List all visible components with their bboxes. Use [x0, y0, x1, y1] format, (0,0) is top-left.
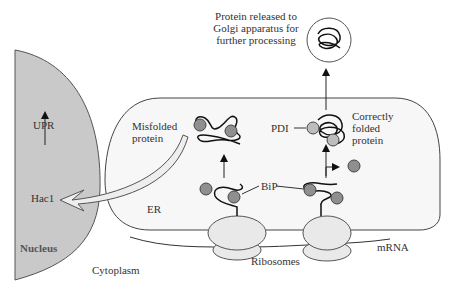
bip-circle [225, 125, 237, 137]
misfolded-line: protein [132, 132, 177, 144]
pdi-circle [327, 134, 339, 146]
bip-circle [304, 184, 316, 196]
cytoplasm-label: Cytoplasm [92, 264, 140, 276]
correct-line: folded [352, 122, 394, 134]
er-label: ER [147, 203, 161, 215]
correctly-folded-label: Correctly folded protein [352, 110, 394, 146]
pdi-label: PDI [271, 122, 289, 134]
bip-circle [331, 192, 343, 204]
bip-circle [194, 119, 206, 131]
golgi-caption-line: Golgi apparatus for [196, 22, 316, 34]
bip-circle [228, 191, 240, 203]
golgi-caption-line: further processing [196, 34, 316, 46]
pdi-circle [307, 122, 319, 134]
released-bip-circle [348, 160, 360, 172]
golgi-caption: Protein released to Golgi apparatus for … [196, 10, 316, 46]
ribosome-left [208, 216, 266, 260]
bip-circle [200, 183, 212, 195]
misfolded-line: Misfolded [132, 120, 177, 132]
ribosome-right [303, 216, 351, 261]
ribosomes-label: Ribosomes [251, 255, 300, 267]
correct-line: protein [352, 134, 394, 146]
correct-line: Correctly [352, 110, 394, 122]
nucleus-label: Nucleus [20, 242, 57, 254]
upr-label: UPR [33, 119, 54, 131]
hac1-label: Hac1 [31, 192, 54, 204]
mrna-label: mRNA [377, 241, 409, 253]
misfolded-protein-label: Misfolded protein [132, 120, 177, 144]
bip-label: BiP [261, 180, 278, 192]
golgi-caption-line: Protein released to [196, 10, 316, 22]
